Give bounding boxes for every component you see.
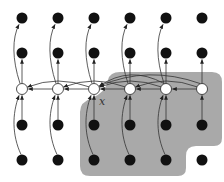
- black-node: [161, 120, 172, 131]
- black-node: [125, 48, 136, 59]
- black-node: [17, 120, 28, 131]
- black-node: [125, 120, 136, 131]
- black-node: [161, 13, 172, 24]
- black-node: [197, 13, 208, 24]
- black-node: [197, 48, 208, 59]
- black-node: [17, 48, 28, 59]
- white-node: [161, 84, 172, 95]
- black-node: [53, 48, 64, 59]
- lattice-diagram: x: [0, 0, 224, 182]
- black-node: [53, 120, 64, 131]
- black-node: [53, 155, 64, 166]
- black-node: [89, 155, 100, 166]
- black-node: [89, 120, 100, 131]
- black-node: [197, 120, 208, 131]
- black-node: [197, 155, 208, 166]
- white-node: [17, 84, 28, 95]
- black-node: [17, 155, 28, 166]
- white-node: [125, 84, 136, 95]
- white-node: [53, 84, 64, 95]
- white-node-x: [89, 84, 100, 95]
- white-node: [197, 84, 208, 95]
- black-node: [17, 13, 28, 24]
- black-node: [89, 13, 100, 24]
- black-node: [161, 155, 172, 166]
- black-node: [125, 155, 136, 166]
- black-node: [161, 48, 172, 59]
- black-node: [53, 13, 64, 24]
- black-node: [89, 48, 100, 59]
- center-node-label: x: [99, 95, 106, 108]
- black-node: [125, 13, 136, 24]
